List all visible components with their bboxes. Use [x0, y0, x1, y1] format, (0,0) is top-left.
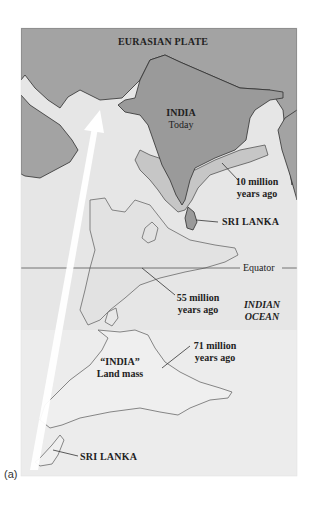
- sri-lanka-today-label: SRI LANKA: [222, 216, 279, 227]
- panel-label: (a): [4, 468, 17, 480]
- india-landmass-label-line2: Land mass: [95, 368, 145, 379]
- sri-lanka-ancient-label: SRI LANKA: [80, 451, 137, 462]
- india-today-label-line2: Today: [166, 119, 196, 130]
- indian-ocean-label-line2: OCEAN: [240, 311, 284, 322]
- fifty-five-million-label-line2: years ago: [173, 304, 223, 315]
- seventy-one-million-label-line2: years ago: [190, 352, 240, 363]
- eurasian-plate-label: EURASIAN PLATE: [118, 36, 208, 47]
- india-drift-map-figure: EURASIAN PLATE INDIA Today 10 million ye…: [0, 0, 314, 509]
- map-canvas: [0, 0, 314, 509]
- fifty-five-million-label-line1: 55 million: [173, 292, 223, 303]
- ten-million-label-line1: 10 million: [232, 176, 282, 187]
- indian-ocean-label-line1: INDIAN: [240, 299, 284, 310]
- seventy-one-million-label-line1: 71 million: [190, 340, 240, 351]
- ten-million-label-line2: years ago: [232, 188, 282, 199]
- india-landmass-label-line1: “INDIA”: [95, 356, 145, 367]
- equator-label: Equator: [243, 262, 275, 273]
- india-today-label-line1: INDIA: [166, 107, 196, 118]
